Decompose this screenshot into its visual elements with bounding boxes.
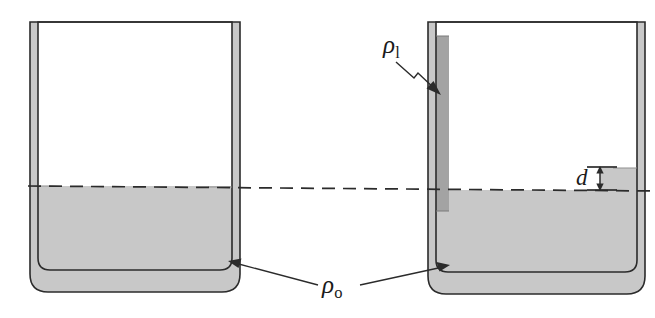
label-rho-l: ρl	[383, 32, 400, 61]
left-vessel	[28, 22, 244, 296]
label-rho-o-subscript: o	[334, 283, 342, 302]
right-vessel	[426, 22, 646, 300]
label-rho-l-symbol: ρ	[383, 31, 395, 58]
physics-figure-utube-manometer: ρl ρo d	[0, 0, 655, 318]
label-rho-o: ρo	[322, 272, 343, 301]
label-rho-o-symbol: ρ	[322, 271, 334, 298]
label-d-symbol: d	[576, 165, 588, 190]
right-vessel-liquid-rho-l	[436, 36, 449, 211]
label-d: d	[576, 166, 588, 189]
label-rho-l-subscript: l	[395, 43, 400, 62]
rho-o-leader-left-line	[235, 263, 318, 285]
